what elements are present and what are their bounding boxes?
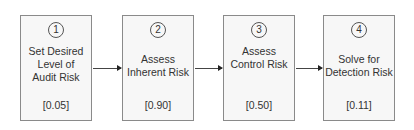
step-value: [0.50] [224, 99, 294, 111]
step-number-badge: 2 [150, 22, 166, 38]
step-box-inherent-risk: 2 Assess Inherent Risk [0.90] [122, 15, 194, 121]
step-title: Assess Control Risk [230, 45, 287, 71]
arrow-right-icon [296, 68, 322, 69]
step-title: Solve for Detection Risk [325, 53, 393, 79]
step-value: [0.11] [324, 99, 394, 111]
step-box-control-risk: 3 Assess Control Risk [0.50] [223, 15, 295, 121]
step-title: Assess Inherent Risk [127, 53, 189, 79]
step-value: [0.90] [123, 99, 193, 111]
step-number-badge: 1 [48, 22, 64, 38]
step-number-badge: 4 [351, 22, 367, 38]
step-value: [0.05] [21, 99, 91, 111]
arrow-right-icon [93, 68, 121, 69]
step-number-badge: 3 [251, 22, 267, 38]
arrow-right-icon [195, 68, 222, 69]
step-title: Set Desired Level of Audit Risk [29, 45, 84, 84]
step-box-set-audit-risk: 1 Set Desired Level of Audit Risk [0.05] [20, 15, 92, 121]
step-box-detection-risk: 4 Solve for Detection Risk [0.11] [323, 15, 395, 121]
